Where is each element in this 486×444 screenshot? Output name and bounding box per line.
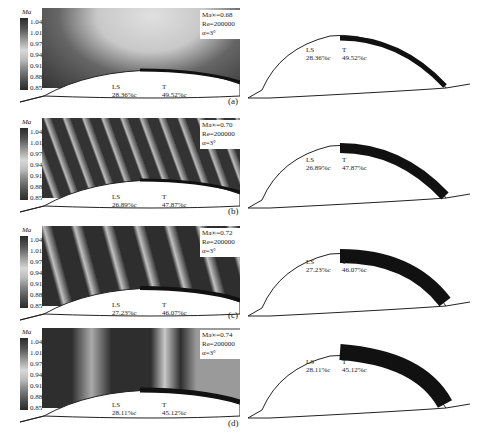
t-label: T47.87%c bbox=[162, 193, 187, 209]
subfigure-label: (c) bbox=[228, 310, 238, 320]
ls-label: LS26.89%c bbox=[306, 156, 331, 172]
t-label: T49.52%c bbox=[342, 46, 367, 62]
t-label: T46.07%c bbox=[342, 258, 367, 274]
mach-contour-panel-b: Ma 1.04 1.01 0.97 0.94 0.91 0.88 0.85 Ma… bbox=[0, 118, 240, 218]
flow-conditions: Ma∞=0.70Re=200000α=3° bbox=[200, 120, 244, 149]
t-label: T46.07%c bbox=[162, 301, 187, 317]
mach-contour-panel-a: Ma 1.04 1.01 0.97 0.94 0.91 0.88 0.85 Ma… bbox=[0, 8, 240, 108]
t-label: T45.12%c bbox=[162, 401, 187, 417]
streamline-panel-b: LS26.89%c T47.87%c bbox=[240, 118, 486, 218]
ls-label: LS28.36%c bbox=[306, 46, 331, 62]
ls-label: LS26.89%c bbox=[112, 193, 137, 209]
ls-label: LS28.11%c bbox=[112, 401, 136, 417]
ls-label: LS28.36%c bbox=[112, 83, 137, 99]
ls-label: LS27.23%c bbox=[112, 301, 137, 317]
mach-contour-panel-d: Ma 1.04 1.01 0.97 0.94 0.91 0.88 0.85 Ma… bbox=[0, 328, 240, 428]
subfigure-label: (d) bbox=[228, 418, 239, 428]
separation-bubble-diagram bbox=[240, 226, 486, 326]
t-label: T47.87%c bbox=[342, 156, 367, 172]
streamline-panel-d: LS28.11%c T45.12%c bbox=[240, 328, 486, 428]
flow-conditions: Ma∞=0.72Re=200000α=3° bbox=[200, 228, 244, 257]
t-label: T45.12%c bbox=[342, 358, 367, 374]
mach-contour-panel-c: Ma 1.04 1.01 0.97 0.94 0.91 0.88 0.85 Ma… bbox=[0, 226, 240, 326]
separation-bubble-diagram bbox=[240, 328, 486, 428]
flow-conditions: Ma∞=0.74Re=200000α=3° bbox=[200, 330, 244, 359]
subfigure-label: (a) bbox=[228, 96, 238, 106]
ls-label: LS28.11%c bbox=[306, 358, 330, 374]
ls-label: LS27.23%c bbox=[306, 258, 331, 274]
streamline-panel-c: LS27.23%c T46.07%c bbox=[240, 226, 486, 326]
streamline-panel-a: LS28.36%c T49.52%c bbox=[240, 8, 486, 108]
subfigure-label: (b) bbox=[228, 206, 239, 216]
t-label: T49.52%c bbox=[162, 83, 187, 99]
flow-conditions: Ma∞=0.68 Re=200000 α=3° bbox=[200, 10, 244, 39]
